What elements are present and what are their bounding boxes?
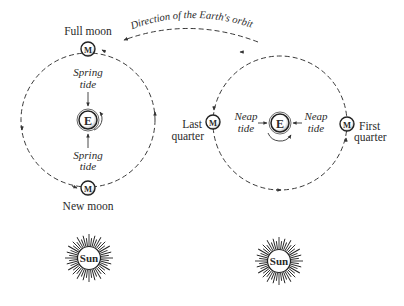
new-moon-label: New moon bbox=[63, 200, 114, 212]
tides-diagram: Direction of the Earth's orbit Full moon… bbox=[0, 0, 404, 306]
last-quarter-label-1: Last bbox=[182, 118, 203, 130]
svg-text:M: M bbox=[343, 120, 351, 130]
svg-text:M: M bbox=[209, 118, 217, 128]
sun-icon-left: Sun bbox=[65, 234, 113, 282]
neap-tide-left-label-1: Neap bbox=[233, 110, 258, 122]
svg-text:E: E bbox=[276, 117, 284, 131]
spring-tide-bottom-label-2: tide bbox=[80, 160, 97, 172]
neap-tide-right-label-2: tide bbox=[308, 122, 325, 134]
sun-icon-right: Sun bbox=[255, 237, 303, 285]
svg-text:M: M bbox=[84, 184, 92, 194]
spring-tide-top-label-1: Spring bbox=[73, 66, 103, 78]
orbit-direction-arc bbox=[124, 28, 258, 42]
earth-icon-right: E bbox=[268, 112, 291, 141]
neap-tide-right-label-1: Neap bbox=[303, 110, 328, 122]
sun-label-right: Sun bbox=[270, 255, 288, 267]
spring-tide-top-label-2: tide bbox=[80, 78, 97, 90]
earth-icon-left: E bbox=[77, 109, 102, 131]
full-moon-label: Full moon bbox=[64, 25, 112, 37]
full-moon-icon: M bbox=[81, 42, 95, 56]
last-quarter-moon-icon: M bbox=[206, 115, 220, 129]
orbit-arrow-top bbox=[102, 50, 106, 52]
neap-tide-panel: M Last quarter Neap tide E Neap tide M F… bbox=[171, 52, 386, 285]
last-quarter-label-2: quarter bbox=[171, 130, 204, 143]
earth-orbit-direction: Direction of the Earth's orbit bbox=[124, 9, 258, 42]
first-quarter-label-2: quarter bbox=[354, 131, 387, 144]
new-moon-icon: M bbox=[81, 181, 95, 195]
svg-text:M: M bbox=[84, 45, 92, 55]
svg-text:E: E bbox=[84, 114, 92, 128]
spring-tide-panel: Full moon M Spring tide E Spring tide M … bbox=[21, 25, 155, 282]
neap-tide-left-label-2: tide bbox=[238, 122, 255, 134]
sun-label-left: Sun bbox=[80, 252, 98, 264]
first-quarter-moon-icon: M bbox=[340, 117, 354, 131]
